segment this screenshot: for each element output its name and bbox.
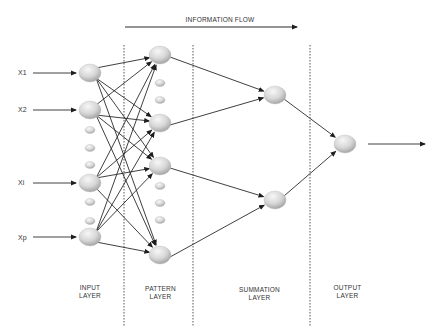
edge-pattern-4-summation-2 <box>170 205 264 257</box>
input-node-2 <box>79 101 101 119</box>
output-layer-line1: OUTPUT <box>325 284 370 292</box>
input-label-x1: X1 <box>18 69 27 76</box>
pattern-node-2 <box>149 114 171 132</box>
input-label-xi: Xi <box>18 179 24 186</box>
input-ellipsis-dot-4 <box>85 199 95 206</box>
input-layer-label: INPUT LAYER <box>70 284 110 300</box>
pattern-ellipsis-dot-5 <box>155 217 165 224</box>
pattern-ellipsis-dot-1 <box>155 80 165 87</box>
edge-input-4-pattern-4 <box>96 242 149 252</box>
input-ellipsis-dot-1 <box>85 127 95 134</box>
edge-pattern-3-summation-2 <box>170 168 263 197</box>
pattern-layer-line2: LAYER <box>138 293 183 301</box>
summation-layer-line2: LAYER <box>232 294 287 302</box>
summation-layer-label: SUMMATION LAYER <box>232 286 287 302</box>
output-layer-line2: LAYER <box>325 292 370 300</box>
input-label-x2: X2 <box>18 106 27 113</box>
input-ellipsis-dot-2 <box>85 145 95 152</box>
input-ellipsis-dot-3 <box>85 162 95 169</box>
layer-dividers <box>124 45 310 326</box>
input-layer-line2: LAYER <box>70 292 110 300</box>
edge-input-2-pattern-2 <box>96 115 149 121</box>
pattern-layer-line1: PATTERN <box>138 285 183 293</box>
pattern-ellipsis-dot-2 <box>155 97 165 104</box>
pattern-layer-label: PATTERN LAYER <box>138 285 183 301</box>
edge-input-1-pattern-1 <box>96 58 149 68</box>
input-node-1 <box>79 64 101 82</box>
pattern-node-4 <box>149 246 171 264</box>
network-diagram <box>0 0 441 331</box>
edge-input-4-pattern-2 <box>96 132 154 232</box>
input-layer-line1: INPUT <box>70 284 110 292</box>
edge-pattern-1-summation-1 <box>170 57 264 91</box>
output-node <box>334 135 356 153</box>
edges <box>33 57 425 257</box>
input-node-3 <box>79 174 101 192</box>
information-flow-label: INFORMATION FLOW <box>160 16 280 24</box>
input-label-xp: Xp <box>18 234 27 241</box>
pattern-node-3 <box>149 157 171 175</box>
output-layer-label: OUTPUT LAYER <box>325 284 370 300</box>
summation-node-1 <box>264 86 286 104</box>
edge-input-3-pattern-3 <box>96 169 149 178</box>
pattern-node-1 <box>149 46 171 64</box>
summation-node-2 <box>264 191 286 209</box>
input-ellipsis-dot-5 <box>85 218 95 225</box>
edge-input-1-pattern-3 <box>96 78 153 157</box>
pattern-ellipsis-dot-3 <box>155 183 165 190</box>
pattern-ellipsis-dot-4 <box>155 200 165 207</box>
edge-pattern-2-summation-1 <box>170 98 263 125</box>
input-node-4 <box>79 228 101 246</box>
summation-layer-line1: SUMMATION <box>232 286 287 294</box>
edge-summation-1-output <box>284 99 335 137</box>
